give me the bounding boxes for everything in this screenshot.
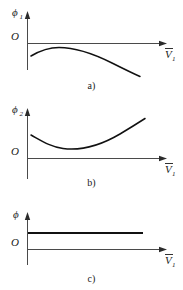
figure-panel-c: ϕ O V 1 c) (0, 193, 183, 290)
figure-panel-b: ϕ 2 O V 1 b) (0, 97, 183, 194)
y-axis-subscript-b: 2 (20, 110, 24, 118)
figure-root: ϕ 1 O V 1 a) ϕ 2 O V 1 b) (0, 0, 183, 290)
y-axis-arrowhead (25, 11, 30, 19)
figure-panel-a: ϕ 1 O V 1 a) (0, 0, 183, 97)
y-axis-subscript-a: 1 (20, 13, 24, 21)
panel-caption-b: b) (0, 177, 183, 188)
origin-label-b: O (11, 145, 19, 157)
x-axis-subscript-c: 1 (172, 261, 176, 269)
y-axis-label-c: ϕ (13, 208, 19, 220)
x-axis-arrowhead (159, 156, 167, 161)
panel-caption-a: a) (0, 80, 183, 91)
x-axis-arrowhead (159, 41, 167, 46)
origin-label-a: O (11, 30, 19, 42)
x-axis-arrowhead (159, 247, 167, 252)
y-axis-arrowhead (25, 108, 30, 116)
y-axis-arrowhead (25, 212, 30, 220)
y-axis-label-a: ϕ (12, 6, 18, 18)
origin-label-c: O (11, 236, 19, 248)
panel-caption-c: c) (0, 273, 183, 284)
x-axis-subscript-a: 1 (172, 55, 176, 63)
curve-phi1 (31, 48, 140, 77)
curve-phi2 (31, 119, 145, 150)
y-axis-label-b: ϕ (12, 103, 18, 115)
